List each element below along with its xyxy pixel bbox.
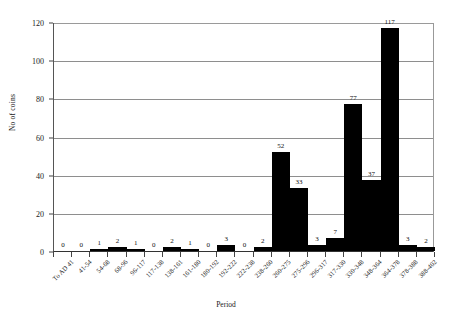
x-axis-tick-label: 388-402 bbox=[417, 258, 438, 279]
bar-value-label: 3 bbox=[406, 236, 410, 243]
y-axis-tick-label: 40 bbox=[36, 171, 44, 180]
x-axis-tickmark bbox=[144, 252, 145, 257]
bar[interactable] bbox=[326, 238, 344, 251]
y-axis-tick-label: 60 bbox=[36, 133, 44, 142]
x-axis-tickmark bbox=[253, 252, 254, 257]
bar[interactable] bbox=[399, 245, 417, 251]
bar-value-label: 117 bbox=[385, 19, 395, 26]
bar-slot: 37 bbox=[362, 23, 380, 251]
bar-slot: 33 bbox=[290, 23, 308, 251]
y-axis-tick-label: 20 bbox=[36, 209, 44, 218]
x-axis-tick-label: 180-192 bbox=[199, 258, 220, 279]
y-axis-tick-label: 0 bbox=[40, 248, 44, 257]
bar[interactable] bbox=[108, 247, 126, 251]
bar-value-label: 1 bbox=[134, 240, 138, 247]
bar-slot: 7 bbox=[326, 23, 344, 251]
x-axis-tickmark bbox=[271, 252, 272, 257]
x-axis-tick-label: 41-54 bbox=[77, 258, 93, 274]
x-axis-tickmark bbox=[234, 252, 235, 257]
x-axis-tick-label: 275-296 bbox=[290, 258, 311, 279]
x-axis-tickmark bbox=[71, 252, 72, 257]
bar[interactable] bbox=[181, 249, 199, 251]
bar-slot: 3 bbox=[399, 23, 417, 251]
bar-value-label: 2 bbox=[424, 238, 428, 245]
bar-chart: No of coins 020406080100120 001210210302… bbox=[0, 0, 452, 317]
x-axis-tick-label: 364-378 bbox=[380, 258, 401, 279]
bar[interactable] bbox=[217, 245, 235, 251]
x-axis-tick-label: 260-275 bbox=[271, 258, 292, 279]
x-axis-tick-label: 330-348 bbox=[344, 258, 365, 279]
bars-layer: 001210210302523337773711732 bbox=[54, 23, 433, 251]
x-axis-tickmark bbox=[126, 252, 127, 257]
x-axis-tickmark bbox=[380, 252, 381, 257]
bar-value-label: 2 bbox=[170, 238, 174, 245]
x-axis-tickmark bbox=[107, 252, 108, 257]
bar-value-label: 77 bbox=[350, 95, 357, 102]
x-axis-tick-label: 68-96 bbox=[113, 258, 129, 274]
x-axis-tickmark bbox=[434, 252, 435, 257]
x-axis-tick-label: 117-138 bbox=[145, 258, 166, 279]
bar-slot: 1 bbox=[181, 23, 199, 251]
bar[interactable] bbox=[362, 180, 380, 251]
x-axis-tickmark bbox=[198, 252, 199, 257]
x-axis-tick-label: 296-317 bbox=[308, 258, 329, 279]
bar-value-label: 2 bbox=[116, 238, 120, 245]
bar[interactable] bbox=[254, 247, 272, 251]
bar-value-label: 33 bbox=[295, 179, 302, 186]
x-axis-tickmark bbox=[180, 252, 181, 257]
bar-slot: 3 bbox=[308, 23, 326, 251]
x-axis-tick-label: 238-260 bbox=[253, 258, 274, 279]
bar-value-label: 7 bbox=[333, 229, 337, 236]
bar-value-label: 1 bbox=[98, 240, 102, 247]
x-axis-tick-label: 161-180 bbox=[181, 258, 202, 279]
bar-slot: 2 bbox=[417, 23, 435, 251]
y-axis-tick-labels: 020406080100120 bbox=[0, 0, 52, 317]
bar-value-label: 0 bbox=[243, 242, 247, 249]
bar[interactable] bbox=[272, 152, 290, 251]
x-axis-tick-label: 192-222 bbox=[217, 258, 238, 279]
bar-value-label: 52 bbox=[277, 143, 284, 150]
bar-slot: 0 bbox=[54, 23, 72, 251]
y-axis-tick-label: 80 bbox=[36, 95, 44, 104]
x-axis-tickmark bbox=[343, 252, 344, 257]
x-axis-tickmark bbox=[89, 252, 90, 257]
bar-value-label: 0 bbox=[79, 242, 83, 249]
x-axis-tick-label: To AD 41 bbox=[51, 258, 75, 282]
x-axis-tickmark bbox=[307, 252, 308, 257]
bar[interactable] bbox=[344, 104, 362, 251]
bar-slot: 2 bbox=[254, 23, 272, 251]
x-axis-tickmark bbox=[53, 252, 54, 257]
x-axis-tick-label: 317-330 bbox=[326, 258, 347, 279]
x-axis-tick-label: 378-388 bbox=[398, 258, 419, 279]
bar-slot: 1 bbox=[127, 23, 145, 251]
bar-value-label: 3 bbox=[225, 236, 229, 243]
bar-value-label: 37 bbox=[368, 171, 375, 178]
bar-slot: 117 bbox=[381, 23, 399, 251]
bar[interactable] bbox=[163, 247, 181, 251]
bar[interactable] bbox=[90, 249, 108, 251]
x-axis-tick-label: 348-364 bbox=[362, 258, 383, 279]
plot-area: 001210210302523337773711732 bbox=[53, 23, 434, 252]
x-axis-tick-label: 222-238 bbox=[235, 258, 256, 279]
bar[interactable] bbox=[417, 247, 435, 251]
bar-slot: 2 bbox=[108, 23, 126, 251]
bar[interactable] bbox=[127, 249, 145, 251]
x-axis-tick-label: 138-161 bbox=[163, 258, 184, 279]
x-axis-tickmark bbox=[162, 252, 163, 257]
x-axis-tickmark bbox=[361, 252, 362, 257]
x-axis-tickmark bbox=[416, 252, 417, 257]
bar-slot: 2 bbox=[163, 23, 181, 251]
x-axis-tick-label: 54-68 bbox=[95, 258, 111, 274]
bar-slot: 0 bbox=[235, 23, 253, 251]
x-axis-tickmark bbox=[325, 252, 326, 257]
bar[interactable] bbox=[381, 28, 399, 251]
x-axis-title: Period bbox=[0, 300, 452, 309]
bar-value-label: 1 bbox=[188, 240, 192, 247]
x-axis-tick-labels: To AD 4141-5454-6868-9696-117117-138138-… bbox=[53, 258, 434, 304]
x-axis-tickmark bbox=[398, 252, 399, 257]
bar-value-label: 0 bbox=[206, 242, 210, 249]
y-axis-tick-label: 100 bbox=[32, 57, 44, 66]
bar-slot: 0 bbox=[72, 23, 90, 251]
bar[interactable] bbox=[308, 245, 326, 251]
bar[interactable] bbox=[290, 188, 308, 251]
